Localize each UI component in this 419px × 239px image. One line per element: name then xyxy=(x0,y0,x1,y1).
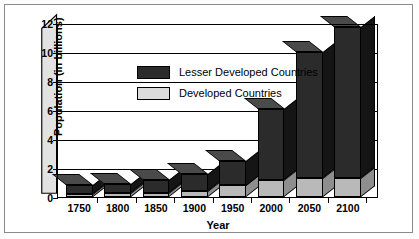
bar-top-3d xyxy=(205,150,246,161)
x-tick-label: 1850 xyxy=(144,202,167,214)
bar-face xyxy=(104,193,131,197)
legend-item-1: Lesser Developed Countries xyxy=(137,64,318,80)
bar-1900 xyxy=(181,23,208,197)
bar-1750 xyxy=(66,23,93,197)
legend-item-2: Developed Countries xyxy=(137,85,318,101)
y-tick-label: 12 xyxy=(41,19,53,30)
bar-segment-2000-lesser-developed xyxy=(258,109,285,180)
bar-segment-1750-developed xyxy=(66,194,93,197)
bar-segment-2100-developed xyxy=(334,178,361,197)
bar-segment-2000-developed xyxy=(258,180,285,197)
legend-label: Developed Countries xyxy=(179,87,282,99)
y-tick-mark xyxy=(53,24,58,25)
plot-area: Population (in billions) Year 024681012 … xyxy=(57,24,378,198)
bar-face xyxy=(296,178,323,197)
x-tick-label: 1750 xyxy=(68,202,91,214)
x-tick-mark xyxy=(136,197,137,203)
x-tick-mark xyxy=(251,197,252,203)
bar-segment-1900-lesser-developed xyxy=(181,174,208,191)
legend-swatch xyxy=(137,87,170,100)
bar-face xyxy=(181,191,208,197)
x-tick-label: 2050 xyxy=(298,202,321,214)
bar-2100 xyxy=(334,23,361,197)
bar-face xyxy=(334,178,361,197)
bar-side-3d xyxy=(361,16,375,178)
figure-container: Population (in billions) Year 024681012 … xyxy=(0,0,419,239)
y-tick-mark xyxy=(53,111,58,112)
x-tick-label: 2000 xyxy=(259,202,282,214)
x-axis-title: Year xyxy=(58,219,378,231)
y-tick-mark xyxy=(53,169,58,170)
bar-segment-1950-developed xyxy=(219,185,246,197)
y-tick-label: 10 xyxy=(41,48,53,59)
bar-top-3d xyxy=(52,174,93,185)
chart-legend: Lesser Developed CountriesDeveloped Coun… xyxy=(137,64,318,106)
bar-face xyxy=(143,180,170,193)
bar-face xyxy=(143,193,170,197)
bar-segment-1850-lesser-developed xyxy=(143,180,170,193)
bar-top-3d xyxy=(129,169,170,180)
y-tick-mark xyxy=(53,53,58,54)
x-tick-label: 1800 xyxy=(106,202,129,214)
bar-face xyxy=(66,185,93,194)
x-tick-label: 1900 xyxy=(183,202,206,214)
bar-segment-1800-lesser-developed xyxy=(104,184,131,193)
bar-2050 xyxy=(296,23,323,197)
bar-face xyxy=(104,184,131,193)
x-tick-mark xyxy=(174,197,175,203)
x-tick-mark xyxy=(328,197,329,203)
bar-top-3d xyxy=(282,41,323,52)
bar-face xyxy=(334,27,361,178)
bar-face xyxy=(258,180,285,197)
bar-2000 xyxy=(258,23,285,197)
x-tick-label: 2100 xyxy=(336,202,359,214)
x-tick-mark xyxy=(213,197,214,203)
bar-segment-1950-lesser-developed xyxy=(219,161,246,186)
bar-segment-1750-lesser-developed xyxy=(66,185,93,194)
x-tick-label: 1950 xyxy=(221,202,244,214)
x-tick-mark xyxy=(289,197,290,203)
x-tick-mark xyxy=(97,197,98,203)
bar-face xyxy=(181,174,208,191)
legend-label: Lesser Developed Countries xyxy=(179,66,318,78)
x-tick-mark xyxy=(366,197,367,203)
bar-face xyxy=(258,109,285,180)
bar-segment-1900-developed xyxy=(181,191,208,197)
y-tick-mark xyxy=(53,198,58,199)
bar-1950 xyxy=(219,23,246,197)
y-tick-mark xyxy=(53,140,58,141)
bar-segment-2100-lesser-developed xyxy=(334,27,361,178)
bar-segment-1850-developed xyxy=(143,193,170,197)
bar-1850 xyxy=(143,23,170,197)
y-axis-title: Population (in billions) xyxy=(52,17,64,136)
bar-segment-1800-developed xyxy=(104,193,131,197)
y-tick-mark xyxy=(53,82,58,83)
bar-top-3d xyxy=(167,163,208,174)
bar-segment-2050-developed xyxy=(296,178,323,197)
bar-face xyxy=(219,185,246,197)
bar-face xyxy=(66,194,93,197)
legend-swatch xyxy=(137,66,170,79)
bar-1800 xyxy=(104,23,131,197)
bar-face xyxy=(219,161,246,186)
